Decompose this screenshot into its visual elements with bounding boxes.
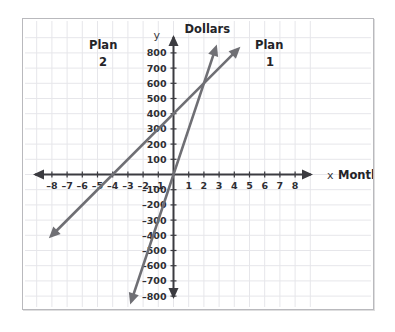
x-tick-label: 4: [231, 180, 238, 191]
plot-frame: –8–7–6–5–4–3–2–112345678 800700600500400…: [22, 18, 374, 310]
series-label-number-plan-1: 1: [266, 55, 274, 69]
y-tick-label: –800: [142, 291, 167, 302]
x-tick-label: –6: [77, 180, 89, 191]
x-tick-label: –3: [122, 180, 133, 191]
y-tick-label: –300: [142, 215, 167, 226]
series-label-number-plan-2: 2: [99, 55, 107, 69]
x-axis-arrow-right-icon: [302, 170, 313, 180]
y-tick-label: –100: [142, 184, 167, 195]
y-tick-label: –700: [142, 275, 167, 286]
y-tick-label: 200: [147, 139, 167, 150]
y-axis-arrow-down-icon: [169, 288, 179, 299]
y-tick-label: 100: [147, 154, 167, 165]
y-tick-label: 600: [147, 78, 167, 89]
x-tick-label: –7: [61, 180, 72, 191]
coordinate-plane: –8–7–6–5–4–3–2–112345678 800700600500400…: [23, 19, 373, 309]
series-label-plan-2: Plan: [89, 38, 117, 52]
y-tick-label: 800: [147, 47, 167, 58]
series-arrow-end-icon: [208, 45, 218, 58]
chart-figure: –8–7–6–5–4–3–2–112345678 800700600500400…: [0, 0, 395, 332]
series-label-plan-1: Plan: [255, 38, 283, 52]
x-tick-label: 2: [201, 180, 208, 191]
y-axis-arrow-up-icon: [169, 35, 179, 46]
y-axis-title: Dollars: [185, 22, 231, 36]
series-arrow-start-icon: [129, 292, 139, 305]
x-axis-arrow-left-icon: [33, 170, 44, 180]
x-axis-symbol: x: [327, 169, 334, 182]
x-tick-label: 3: [216, 180, 223, 191]
x-axis-title: Months: [338, 168, 373, 182]
y-axis-symbol: y: [154, 29, 161, 42]
x-tick-label: 6: [261, 180, 268, 191]
axes: [33, 35, 313, 299]
x-tick-label: 5: [246, 180, 253, 191]
series-labels: Plan1Plan2: [89, 38, 283, 69]
x-tick-label: –8: [46, 180, 58, 191]
y-tick-label: 700: [147, 63, 167, 74]
x-tick-label: 7: [277, 180, 284, 191]
gridlines: [25, 21, 371, 307]
x-tick-label: –4: [107, 180, 119, 191]
x-tick-label: 8: [292, 180, 299, 191]
y-tick-label: 400: [147, 108, 167, 119]
y-tick-label: 500: [147, 93, 167, 104]
x-tick-label: 1: [185, 180, 192, 191]
